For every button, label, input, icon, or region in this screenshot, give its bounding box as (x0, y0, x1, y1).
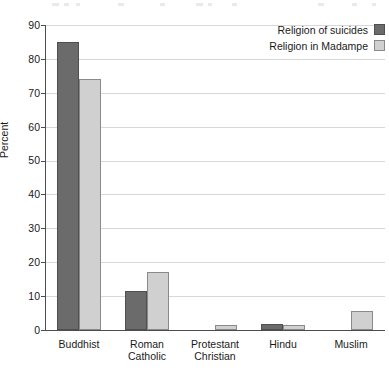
y-tick-mark (41, 296, 45, 297)
bar (283, 325, 305, 330)
y-axis-ticks: 90 80 70 60 50 40 30 20 10 0 (0, 25, 40, 330)
legend-label: Religion of suicides (278, 24, 368, 36)
y-tick-label: 50 (28, 155, 40, 165)
y-tick-label: 90 (28, 20, 40, 30)
bar-chart: Percent 90 80 70 60 50 40 30 20 10 0 Bud… (0, 0, 389, 375)
y-tick-mark (41, 262, 45, 263)
gridline (46, 59, 385, 60)
legend-item: Religion of suicides (269, 22, 385, 37)
x-tick-label: Roman Catholic (113, 338, 181, 362)
plot-area (45, 25, 385, 330)
bar (261, 324, 283, 330)
y-tick-label: 30 (28, 223, 40, 233)
y-tick-mark (41, 25, 45, 26)
y-axis-line (45, 25, 46, 331)
x-tick-label: Protestant Christian (181, 338, 249, 362)
bar (57, 42, 79, 330)
y-tick-mark (41, 228, 45, 229)
y-tick-label: 20 (28, 257, 40, 267)
y-tick-label: 10 (28, 291, 40, 301)
legend-label: Religion in Madampe (269, 40, 368, 52)
y-tick-mark (41, 161, 45, 162)
y-tick-mark (41, 127, 45, 128)
y-tick-label: 80 (28, 54, 40, 64)
light-gray-swatch-icon (374, 40, 385, 51)
bar (147, 272, 169, 330)
y-tick-label: 70 (28, 88, 40, 98)
x-tick-label: Muslim (317, 338, 385, 350)
bar (351, 311, 373, 330)
y-tick-mark (41, 93, 45, 94)
scan-artifact (0, 0, 389, 10)
legend-item: Religion in Madampe (269, 38, 385, 53)
bar (215, 325, 237, 330)
bar (79, 79, 101, 330)
y-tick-label: 60 (28, 122, 40, 132)
y-tick-mark (41, 59, 45, 60)
x-axis-line (45, 330, 385, 331)
y-tick-label: 40 (28, 189, 40, 199)
bar (125, 291, 147, 330)
chart-legend: Religion of suicides Religion in Madampe (269, 22, 385, 54)
y-tick-mark (41, 330, 45, 331)
y-tick-mark (41, 194, 45, 195)
y-tick-label: 0 (34, 325, 40, 335)
x-tick-label: Hindu (249, 338, 317, 350)
x-tick-label: Buddhist (45, 338, 113, 350)
dark-gray-swatch-icon (374, 24, 385, 35)
